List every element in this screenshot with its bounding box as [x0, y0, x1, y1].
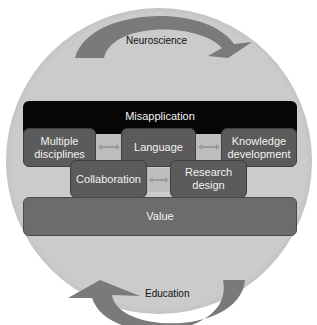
knowledge-development-label: Knowledge development — [224, 135, 294, 161]
double-arrow-icon — [98, 143, 120, 151]
multiple-disciplines-label: Multiple disciplines — [30, 135, 90, 161]
collaboration-label: Collaboration — [76, 173, 141, 186]
research-design-box: Research design — [170, 160, 247, 198]
education-label: Education — [145, 288, 189, 299]
connector-language-knowledge — [196, 134, 221, 160]
double-arrow-icon — [149, 176, 169, 184]
double-arrow-icon — [198, 143, 220, 151]
collaboration-box: Collaboration — [70, 160, 147, 198]
misapplication-label: Misapplication — [125, 110, 195, 123]
language-label: Language — [134, 141, 183, 154]
value-label: Value — [146, 210, 173, 223]
connector-multiple-language — [96, 134, 121, 160]
neuroscience-label: Neuroscience — [126, 35, 187, 46]
research-design-label: Research design — [181, 166, 237, 192]
value-bar: Value — [23, 197, 297, 236]
connector-collaboration-research — [147, 168, 170, 192]
bottom-curved-arrow-icon — [0, 240, 317, 325]
